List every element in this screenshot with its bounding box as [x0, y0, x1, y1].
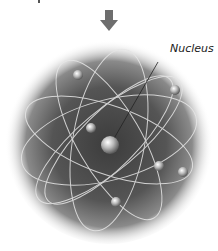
electron: [73, 70, 83, 80]
electron: [111, 197, 121, 207]
electron: [178, 167, 188, 177]
electron: [170, 85, 180, 95]
atom-illustration: [0, 0, 218, 251]
electron: [154, 161, 164, 171]
electron: [86, 123, 96, 133]
nucleus: [101, 136, 119, 154]
nucleus-label: Nucleus: [170, 42, 214, 55]
